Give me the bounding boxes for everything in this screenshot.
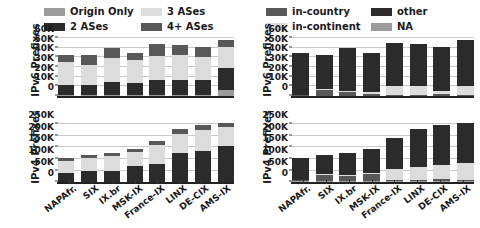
bar-napafr xyxy=(292,38,309,96)
bar-segment xyxy=(172,153,188,181)
panel-column-as-hops: Origin Only3 ASes2 ASes4+ ASes IPv6 Pref… xyxy=(0,0,240,228)
ytick-label: 250K xyxy=(28,111,54,120)
ytick-label: 20K xyxy=(35,63,55,72)
bar-napafr xyxy=(58,121,74,182)
ytick-label: 20K xyxy=(269,63,289,72)
xtick-mark xyxy=(69,180,70,184)
legend-label: 2 ASes xyxy=(70,22,108,32)
bar-segment xyxy=(149,145,165,164)
bar-segment xyxy=(127,53,143,61)
bar-segment xyxy=(104,48,120,58)
bar-segment xyxy=(104,58,120,82)
xtick-mark xyxy=(463,180,464,184)
bar-segment xyxy=(127,152,143,166)
bar-six xyxy=(81,121,97,182)
bar-group xyxy=(58,38,234,96)
legend-geo-item: NA xyxy=(371,22,472,32)
legend-swatch-icon xyxy=(141,23,162,31)
bar-segment xyxy=(433,47,450,91)
bar-segment xyxy=(457,163,474,180)
ytick-label: 250K xyxy=(262,111,288,120)
legend-as-hops-item: Origin Only xyxy=(44,7,137,17)
legend-label: Origin Only xyxy=(70,7,134,17)
legend-swatch-icon xyxy=(266,8,287,16)
bar-segment xyxy=(457,40,474,86)
xtick-mark xyxy=(135,180,136,184)
bar-ix-br xyxy=(104,121,120,182)
bar-ix-br xyxy=(339,38,356,96)
legend-swatch-icon xyxy=(44,8,65,16)
legend-geo: in-countryotherin-continentNA xyxy=(266,5,472,34)
bar-ix-br xyxy=(339,121,356,182)
bar-linx xyxy=(410,38,427,96)
bar-six xyxy=(81,38,97,96)
plot-ipv6-as-hops: 010K20K30K40K50K60K xyxy=(58,38,234,96)
bar-six xyxy=(316,121,333,182)
legend-label: other xyxy=(397,7,427,17)
bar-segment xyxy=(81,158,97,171)
plot-ipv6-geo: 010K20K30K40K50K60K xyxy=(292,38,474,96)
bar-ams-ix xyxy=(218,38,234,96)
bar-segment xyxy=(316,155,333,175)
panel-column-geo: in-countryotherin-continentNA IPv6 Prefi… xyxy=(240,0,480,228)
bar-segment xyxy=(172,134,188,153)
bar-segment xyxy=(172,80,188,95)
bar-segment xyxy=(58,173,74,182)
bar-segment xyxy=(339,153,356,176)
bar-segment xyxy=(292,53,309,95)
legend-geo-item: other xyxy=(371,7,472,17)
legend-swatch-icon xyxy=(371,23,392,31)
ytick-label: 50K xyxy=(269,34,289,43)
bar-segment xyxy=(58,62,74,85)
bar-segment xyxy=(218,146,234,182)
bar-segment xyxy=(363,53,380,93)
xtick-mark xyxy=(157,180,158,184)
xtick-label: NAPAfr. xyxy=(278,184,313,214)
bar-segment xyxy=(104,171,120,182)
legend-as-hops-item: 3 ASes xyxy=(141,7,234,17)
bar-msk-ix xyxy=(363,38,380,96)
xtick-mark xyxy=(113,180,114,184)
bar-segment xyxy=(410,129,427,167)
bar-segment xyxy=(149,56,165,80)
bar-segment xyxy=(127,60,143,83)
bar-segment xyxy=(127,83,143,95)
bar-de-cix xyxy=(195,38,211,96)
plot-inner: 050K100K150K200K250K xyxy=(58,121,234,182)
bar-france-ix xyxy=(149,38,165,96)
ytick-label: 50K xyxy=(35,34,55,43)
bar-segment xyxy=(58,85,74,95)
legend-label: 4+ ASes xyxy=(167,22,214,32)
bar-segment xyxy=(81,85,97,95)
bar-segment xyxy=(195,80,211,95)
bar-segment xyxy=(386,138,403,169)
bar-group xyxy=(292,121,474,182)
ytick-label: 150K xyxy=(262,134,288,143)
bar-segment xyxy=(218,40,234,47)
bar-segment xyxy=(457,86,474,95)
ytick-label: 200K xyxy=(28,122,54,131)
bar-ams-ix xyxy=(218,121,234,182)
ytick-label: 0 xyxy=(282,83,288,92)
bar-segment xyxy=(195,151,211,181)
ytick-label: 30K xyxy=(35,54,55,63)
bar-segment xyxy=(172,45,188,56)
legend-label: in-country xyxy=(292,7,350,17)
bar-segment xyxy=(433,165,450,180)
bar-de-cix xyxy=(433,38,450,96)
bar-segment xyxy=(195,47,211,57)
bar-segment xyxy=(58,161,74,173)
x-axis-line xyxy=(291,96,474,98)
x-axis-line xyxy=(57,96,234,98)
bar-segment xyxy=(292,158,309,180)
ytick-label: 100K xyxy=(28,145,54,154)
bar-segment xyxy=(410,44,427,86)
bar-segment xyxy=(457,123,474,163)
bar-segment xyxy=(339,48,356,92)
bar-segment xyxy=(195,130,211,151)
bar-group xyxy=(58,121,234,182)
xtick-labels-left: NAPAfr.SIXIX.brMSK-IXFrance-IXLINXDE-CIX… xyxy=(58,184,234,228)
bar-segment xyxy=(410,86,427,95)
bar-de-cix xyxy=(433,121,450,182)
bar-linx xyxy=(172,121,188,182)
